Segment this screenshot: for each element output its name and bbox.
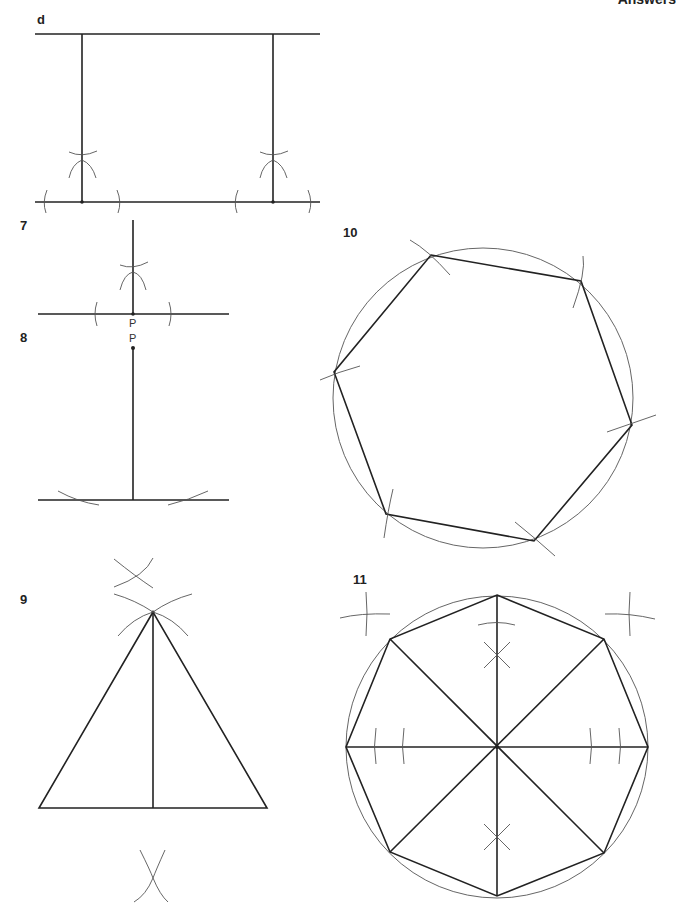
figure-11-octagon — [340, 592, 655, 898]
figure-7-perpendicular-at-point — [38, 220, 229, 326]
figure-d-parallel-perpendiculars — [35, 34, 320, 213]
figure-8-perpendicular-from-point — [38, 346, 229, 505]
figure-10-hexagon — [320, 240, 656, 556]
figure-9-triangle-bisector — [39, 558, 267, 902]
geometry-canvas — [0, 0, 676, 916]
